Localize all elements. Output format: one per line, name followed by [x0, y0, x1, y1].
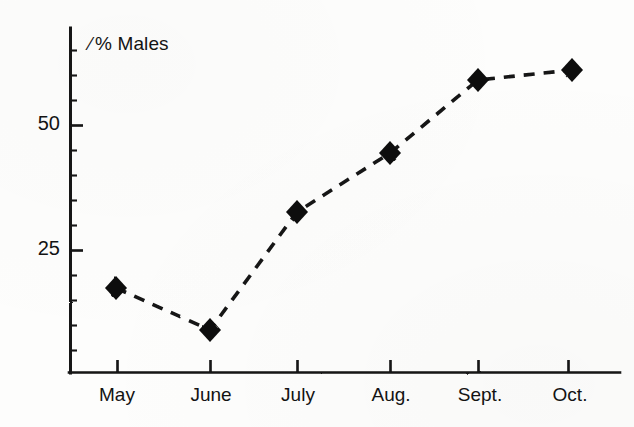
- y-axis-title-text: % Males: [95, 33, 169, 54]
- x-tick-label-oct: Oct.: [553, 384, 588, 406]
- x-tick-label-june: June: [190, 384, 231, 406]
- data-line-series: [116, 70, 572, 330]
- y-tick-label-25: 25: [12, 237, 60, 260]
- data-point-oct: [561, 58, 583, 82]
- x-tick-label-aug: Aug.: [371, 384, 410, 406]
- data-point-may: [105, 276, 127, 300]
- x-tick-label-sept: Sept.: [458, 384, 502, 406]
- data-point-july: [286, 200, 308, 224]
- axis-lines: [69, 28, 620, 373]
- x-tick-label-july: July: [281, 384, 315, 406]
- y-axis-title: ⁄% Males: [89, 33, 169, 55]
- data-point-june: [199, 318, 221, 342]
- x-tick-label-may: May: [99, 384, 135, 406]
- chart-figure: ⁄% Males 50 25 May June July Aug. Sept. …: [0, 0, 634, 427]
- percent-icon: ⁄: [89, 34, 92, 55]
- x-axis-ticks: [118, 360, 569, 372]
- chart-plot-area: [0, 0, 634, 427]
- series-dashed-line: [116, 70, 572, 330]
- data-markers: [105, 58, 583, 342]
- y-tick-label-50: 50: [12, 112, 60, 135]
